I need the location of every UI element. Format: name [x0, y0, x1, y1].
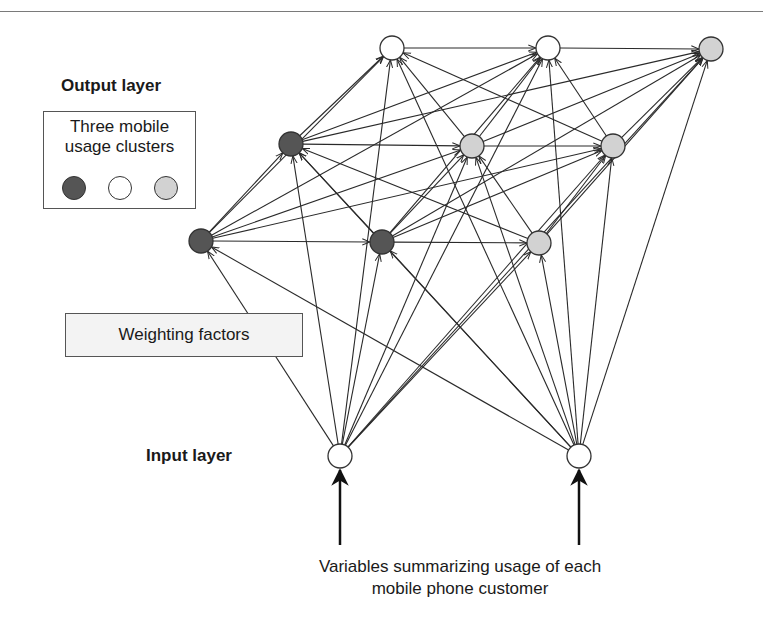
output-layer-label: Output layer	[61, 76, 161, 96]
input-node	[328, 444, 352, 468]
legend-title-line2: usage clusters	[44, 137, 195, 157]
weight-edge	[403, 53, 602, 141]
weight-edge	[390, 155, 464, 233]
legend-title: Three mobile usage clusters	[44, 117, 195, 157]
output-node-white	[536, 36, 560, 60]
input-node	[567, 444, 591, 468]
output-node-grey	[699, 37, 723, 61]
caption-line1: Variables summarizing usage of each	[250, 556, 670, 578]
output-node-dark	[189, 229, 213, 253]
weight-edge	[390, 251, 571, 447]
output-node-grey	[601, 134, 625, 158]
nodes	[189, 36, 723, 468]
weight-edge	[209, 153, 283, 232]
input-arrows	[340, 470, 579, 545]
cluster-legend: Three mobile usage clusters	[43, 111, 196, 209]
caption-line2: mobile phone customer	[250, 578, 670, 600]
input-layer-label: Input layer	[146, 446, 232, 466]
legend-dot-white	[108, 176, 132, 200]
weight-edge	[580, 158, 611, 444]
caption: Variables summarizing usage of each mobi…	[250, 556, 670, 600]
weight-edge	[213, 241, 370, 242]
output-node-white	[380, 36, 404, 60]
legend-dots	[44, 176, 195, 200]
weight-edge	[348, 155, 605, 447]
weight-edge	[348, 58, 703, 447]
weight-edges	[208, 48, 708, 450]
output-node-dark	[370, 230, 394, 254]
legend-dot-dark	[62, 176, 86, 200]
weight-edge	[348, 252, 531, 447]
output-node-dark	[279, 132, 303, 156]
legend-title-line1: Three mobile	[44, 117, 195, 137]
weight-edge	[560, 48, 699, 49]
weight-edge	[300, 56, 384, 135]
weight-edge	[549, 60, 578, 444]
weight-edge	[211, 54, 537, 235]
weight-edge	[293, 156, 338, 444]
output-node-grey	[460, 134, 484, 158]
weight-edge	[546, 156, 605, 234]
output-node-grey	[527, 231, 551, 255]
weight-edge	[394, 242, 527, 243]
legend-dot-grey	[154, 176, 178, 200]
weight-edge	[476, 157, 575, 444]
weight-edge	[345, 157, 468, 445]
weighting-factors-box: Weighting factors	[65, 313, 303, 357]
weight-edge	[555, 58, 607, 136]
